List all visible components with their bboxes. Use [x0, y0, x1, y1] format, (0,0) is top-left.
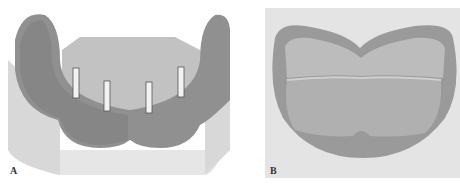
figure-panel-b: B — [265, 8, 460, 178]
figure-panel-a: A — [0, 0, 230, 186]
implant-cast-illustration — [0, 0, 230, 186]
panel-label-b: B — [270, 165, 277, 176]
panel-label-a: A — [10, 165, 17, 176]
denture-base-illustration — [265, 8, 460, 178]
